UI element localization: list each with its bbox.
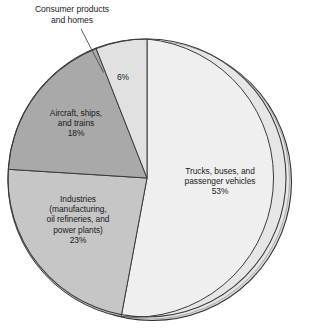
callout-label-line-1: Consumer products <box>8 4 136 15</box>
slice-label-industries-line-2: (manufacturing, <box>20 204 136 214</box>
slice-label-aircraft: Aircraft, ships, and trains 18% <box>22 108 130 139</box>
slice-label-industries-line-3: oil refineries, and <box>20 214 136 224</box>
slice-label-industries-line-1: Industries <box>20 194 136 204</box>
slice-label-industries-line-4: power plants) <box>20 225 136 235</box>
slice-callout-label-consumer: Consumer products and homes <box>8 4 136 26</box>
slice-label-trucks-line-2: passenger vehicles <box>160 176 280 186</box>
slice-value-consumer: 6% <box>108 72 138 82</box>
slice-label-industries: Industries (manufacturing, oil refinerie… <box>20 194 136 245</box>
slice-percent-consumer: 6% <box>108 72 138 82</box>
slice-percent-trucks: 53% <box>160 186 280 196</box>
slice-label-aircraft-line-1: Aircraft, ships, <box>22 108 130 118</box>
slice-label-trucks: Trucks, buses, and passenger vehicles 53… <box>160 166 280 197</box>
slice-percent-industries: 23% <box>20 235 136 245</box>
slice-label-trucks-line-1: Trucks, buses, and <box>160 166 280 176</box>
pie-chart: Consumer products and homes 6% Aircraft,… <box>0 0 312 336</box>
callout-label-line-2: and homes <box>8 15 136 26</box>
slice-label-aircraft-line-2: and trains <box>22 118 130 128</box>
slice-percent-aircraft: 18% <box>22 128 130 138</box>
